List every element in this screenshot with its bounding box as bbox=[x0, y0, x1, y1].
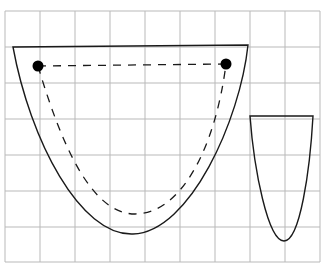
shapes bbox=[13, 45, 313, 241]
diagram-canvas bbox=[0, 0, 328, 270]
large-bowl bbox=[13, 45, 248, 234]
small-bowl bbox=[250, 116, 313, 241]
left-point bbox=[33, 61, 44, 72]
right-point bbox=[221, 59, 232, 70]
grid bbox=[5, 11, 320, 262]
